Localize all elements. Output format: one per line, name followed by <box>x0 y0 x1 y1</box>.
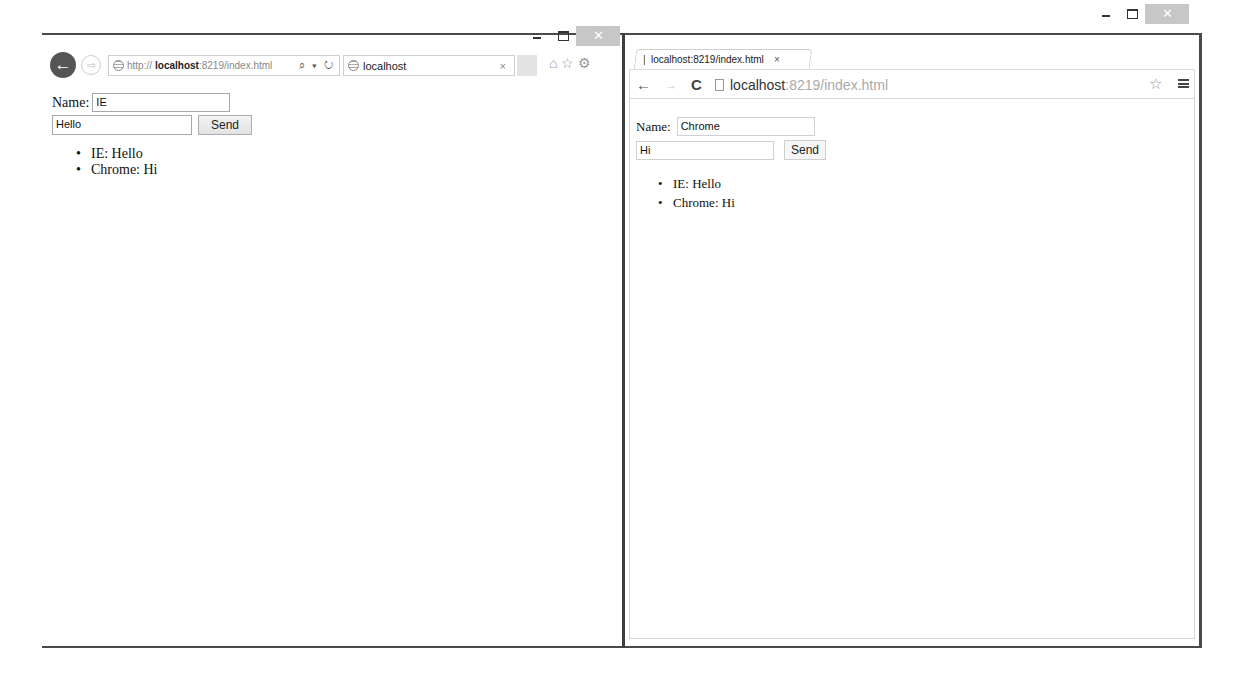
name-input[interactable]: Chrome <box>677 117 815 136</box>
ie-forward-button[interactable]: ⇨ <box>81 55 101 75</box>
chrome-toolbar: ← → C localhost:8219/index.html ☆ <box>629 69 1195 99</box>
globe-icon <box>348 60 359 71</box>
chrome-maximize-button[interactable] <box>1119 4 1145 24</box>
name-label: Name: <box>636 119 671 135</box>
chrome-nav-buttons: ← → C <box>636 76 702 93</box>
ie-minimize-button[interactable] <box>524 26 550 46</box>
globe-icon <box>113 60 124 71</box>
menu-icon[interactable] <box>1178 79 1189 88</box>
tab-title: localhost:8219/index.html <box>651 54 764 65</box>
tab-title: localhost <box>363 60 406 72</box>
loading-favicon-icon <box>644 55 645 65</box>
send-button[interactable]: Send <box>198 115 252 135</box>
ie-maximize-button[interactable] <box>550 26 576 46</box>
name-row: Name: Chrome <box>636 117 826 136</box>
ie-close-button[interactable]: ✕ <box>576 26 620 46</box>
message-item: IE: Hello <box>658 174 826 193</box>
name-label: Name: <box>52 95 89 111</box>
tab-close-icon[interactable]: × <box>774 54 780 65</box>
message-list: IE: Hello Chrome: Hi <box>76 146 252 178</box>
omnibox-rest: :8219/index.html <box>785 77 888 93</box>
ie-page-content: Name: IE Hello Send IE: Hello Chrome: Hi <box>52 93 252 178</box>
send-button[interactable]: Send <box>784 140 826 160</box>
ie-new-tab-button[interactable] <box>517 55 537 76</box>
message-input[interactable]: Hi <box>636 141 774 160</box>
chrome-close-button[interactable]: ✕ <box>1145 4 1189 24</box>
chrome-minimize-button[interactable] <box>1093 4 1119 24</box>
chrome-window-controls: ✕ <box>1093 4 1189 24</box>
message-item: Chrome: Hi <box>658 193 826 212</box>
message-item: IE: Hello <box>76 146 252 162</box>
message-row: Hello Send <box>52 115 252 135</box>
forward-icon[interactable]: → <box>665 78 677 92</box>
ie-back-button[interactable]: ← <box>50 52 76 78</box>
ie-window: ✕ ← ⇨ http://localhost:8219/index.html ⌕… <box>44 35 622 646</box>
name-row: Name: IE <box>52 93 252 112</box>
address-prefix: http:// <box>127 60 152 71</box>
home-favorites-settings-icons[interactable]: ⌂☆⚙ <box>549 55 595 71</box>
ie-window-controls: ✕ <box>524 26 620 46</box>
chrome-content-area: Name: Chrome Hi Send IE: Hello Chrome: H… <box>629 98 1195 639</box>
chrome-tab[interactable]: localhost:8219/index.html × <box>634 49 813 69</box>
ie-address-bar[interactable]: http://localhost:8219/index.html ⌕ ▾ ↻ <box>108 55 340 76</box>
address-host: localhost <box>155 60 199 71</box>
reload-icon[interactable]: C <box>691 76 702 93</box>
chrome-window: ✕ localhost:8219/index.html × ← → C loca… <box>625 35 1199 646</box>
address-rest: :8219/index.html <box>199 60 272 71</box>
message-input[interactable]: Hello <box>52 115 192 135</box>
message-row: Hi Send <box>636 140 826 160</box>
message-item: Chrome: Hi <box>76 162 252 178</box>
back-icon[interactable]: ← <box>636 76 651 93</box>
omnibox-host: localhost <box>730 77 785 93</box>
page-icon <box>715 79 724 91</box>
tab-close-icon[interactable]: × <box>500 60 506 72</box>
window-right-edge <box>1199 33 1202 648</box>
name-input[interactable]: IE <box>92 93 230 112</box>
search-refresh-icons[interactable]: ⌕ ▾ ↻ <box>299 59 335 72</box>
bookmark-star-icon[interactable]: ☆ <box>1149 75 1162 93</box>
ie-tab-localhost[interactable]: localhost × <box>343 55 515 76</box>
omnibox[interactable]: localhost:8219/index.html <box>715 74 1185 95</box>
message-list: IE: Hello Chrome: Hi <box>658 174 826 212</box>
chrome-page-content: Name: Chrome Hi Send IE: Hello Chrome: H… <box>636 117 826 212</box>
